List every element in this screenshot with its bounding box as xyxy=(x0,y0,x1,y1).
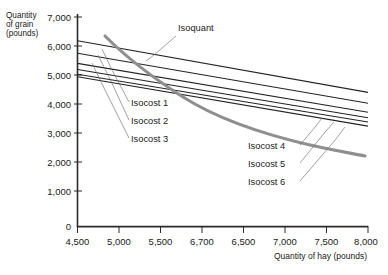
x-axis-title: Quantity of hay (pounds) xyxy=(274,251,367,261)
y-tick-label-3000: 3,000 xyxy=(47,128,71,139)
x-tick-label-6700: 6,700 xyxy=(190,236,214,247)
x-tick-label-6500: 6,500 xyxy=(232,236,256,247)
leader-isocost-2 xyxy=(98,55,129,120)
annotation-isocost-1: Isocost 1 xyxy=(131,98,168,108)
x-tick-label-4500: 4,500 xyxy=(66,236,90,247)
y-tick-label-6000: 6,000 xyxy=(47,41,71,52)
y-axis-title-line-1: Quantity xyxy=(6,11,37,20)
y-axis-title-line-3: (pounds) xyxy=(6,29,39,38)
leader-isocost-3 xyxy=(92,63,129,138)
isocost-line-2 xyxy=(78,53,369,103)
chart-svg: Quantity of grain (pounds) 7,000 6,000 5… xyxy=(0,0,388,275)
isocost-lines xyxy=(78,41,369,126)
x-tick-label-8000: 8,000 xyxy=(354,236,378,247)
isocost-line-3 xyxy=(78,63,369,112)
y-tick-label-2000: 2,000 xyxy=(47,157,71,168)
x-tick-label-5000: 5,000 xyxy=(107,236,131,247)
annotation-isocost-4: Isocost 4 xyxy=(248,141,285,151)
annotation-isoquant: Isoquant xyxy=(178,23,214,33)
annotation-isocost-5: Isocost 5 xyxy=(248,159,285,169)
y-axis-title: Quantity of grain (pounds) xyxy=(6,11,39,38)
isoquant-isocost-chart: Quantity of grain (pounds) 7,000 6,000 5… xyxy=(0,0,388,275)
isocost-line-4 xyxy=(78,70,369,118)
annotation-isocost-3: Isocost 3 xyxy=(131,134,168,144)
x-tick-label-7500: 7,500 xyxy=(315,236,339,247)
x-tick-label-5500: 5,500 xyxy=(149,236,173,247)
y-axis-title-line-2: of grain xyxy=(6,20,34,29)
y-tick-label-7000: 7,000 xyxy=(47,12,71,23)
isocost-line-5 xyxy=(78,74,369,122)
y-tick-label-4000: 4,000 xyxy=(47,99,71,110)
x-axis-tick-labels: 4,500 5,000 5,500 6,700 6,500 7,000 7,50… xyxy=(66,236,378,247)
x-tick-label-7000: 7,000 xyxy=(273,236,297,247)
y-tick-label-5000: 5,000 xyxy=(47,70,71,81)
y-tick-label-0: 0 xyxy=(66,221,71,232)
annotation-isocost-6: Isocost 6 xyxy=(248,177,285,187)
leader-isocost-4 xyxy=(300,118,322,145)
y-axis-tick-labels: 7,000 6,000 5,000 4,000 3,000 2,000 1,00… xyxy=(47,12,71,232)
y-tick-label-1000: 1,000 xyxy=(47,186,71,197)
annotation-isocost-2: Isocost 2 xyxy=(131,116,168,126)
